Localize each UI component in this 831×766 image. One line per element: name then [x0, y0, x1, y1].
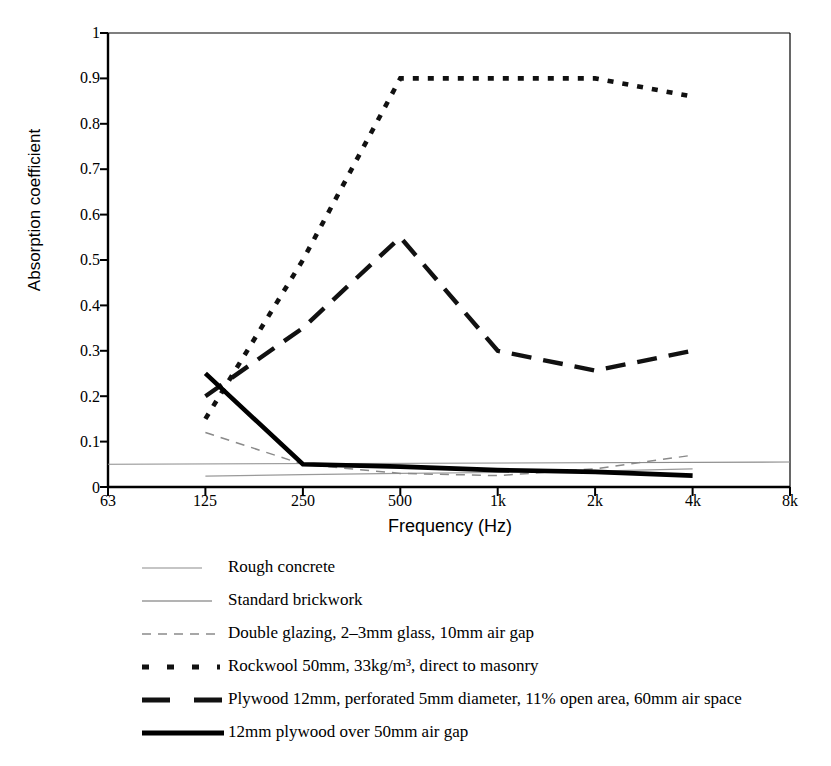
y-tick-07: 0.7 — [60, 161, 100, 177]
legend-swatch-thin-dashed-gray-icon — [140, 623, 226, 643]
y-tick-09: 0.9 — [60, 70, 100, 86]
y-tick-04: 0.4 — [60, 298, 100, 314]
y-tick-02: 0.2 — [60, 389, 100, 405]
legend-label-standard-brickwork: Standard brickwork — [226, 590, 363, 610]
y-axis-label: Absorption coefficient — [25, 80, 45, 340]
y-tick-06: 0.6 — [60, 207, 100, 223]
x-tick-4k: 4k — [663, 492, 723, 510]
y-tick-01: 0.1 — [60, 434, 100, 450]
x-tick-8k: 8k — [760, 492, 820, 510]
legend-swatch-thin-solid-gray2-icon — [140, 590, 226, 610]
x-tick-250: 250 — [273, 492, 333, 510]
legend-item-plywood-perforated: Plywood 12mm, perforated 5mm diameter, 1… — [140, 687, 742, 711]
x-tick-1k: 1k — [468, 492, 528, 510]
legend-label-plywood-perforated: Plywood 12mm, perforated 5mm diameter, 1… — [226, 689, 742, 709]
legend-label-rockwool-text: Rockwool 50mm, 33kg/m³, direct to masonr… — [228, 656, 539, 675]
x-tick-2k: 2k — [565, 492, 625, 510]
chart-legend: Rough concrete Standard brickwork Double… — [0, 545, 831, 725]
legend-item-rough-concrete: Rough concrete — [140, 555, 335, 579]
plot-svg — [0, 0, 831, 545]
chart-plot-area: Absorption coefficient 1 0.9 0.8 0.7 0.6… — [0, 0, 831, 545]
legend-swatch-thick-longdash-black-icon — [140, 689, 226, 709]
y-axis-tick-labels: 1 0.9 0.8 0.7 0.6 0.5 0.4 0.3 0.2 0.1 0 — [58, 0, 100, 500]
series-line-rockwool — [205, 78, 692, 419]
legend-label-rough-concrete: Rough concrete — [226, 557, 335, 577]
y-tick-03: 0.3 — [60, 343, 100, 359]
legend-item-standard-brickwork: Standard brickwork — [140, 588, 363, 612]
absorption-coefficient-figure: Absorption coefficient 1 0.9 0.8 0.7 0.6… — [0, 0, 831, 766]
legend-swatch-thin-solid-gray-icon — [140, 557, 226, 577]
legend-swatch-thick-dotted-black-icon — [140, 656, 226, 676]
legend-swatch-heavy-solid-black-icon — [140, 722, 226, 742]
x-tick-500: 500 — [370, 492, 430, 510]
series-line-double-glazing — [205, 433, 692, 476]
y-tick-08: 0.8 — [60, 116, 100, 132]
legend-item-rockwool: Rockwool 50mm, 33kg/m³, direct to masonr… — [140, 654, 539, 678]
legend-item-double-glazing: Double glazing, 2–3mm glass, 10mm air ga… — [140, 621, 534, 645]
x-tick-63: 63 — [78, 492, 138, 510]
legend-item-plywood-airgap: 12mm plywood over 50mm air gap — [140, 720, 468, 744]
x-axis-label: Frequency (Hz) — [100, 516, 800, 537]
legend-label-plywood-airgap: 12mm plywood over 50mm air gap — [226, 722, 468, 742]
series-line-rough-concrete — [108, 462, 790, 464]
y-tick-05: 0.5 — [60, 252, 100, 268]
legend-label-double-glazing: Double glazing, 2–3mm glass, 10mm air ga… — [226, 623, 534, 643]
legend-label-rockwool: Rockwool 50mm, 33kg/m³, direct to masonr… — [226, 656, 539, 676]
y-tick-marks — [100, 33, 108, 487]
series-line-plywood-airgap — [205, 373, 692, 475]
series-line-standard-brickwork — [205, 469, 692, 476]
y-tick-1: 1 — [60, 25, 100, 41]
x-tick-125: 125 — [175, 492, 235, 510]
series-line-plywood-perforated — [205, 237, 692, 396]
